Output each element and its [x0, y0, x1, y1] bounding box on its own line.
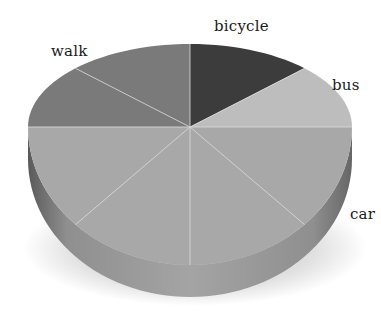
slice-label-bicycle: bicycle — [214, 19, 269, 34]
slice-label-car: car — [350, 207, 375, 222]
slice-label-bus: bus — [332, 78, 360, 93]
slice-label-walk: walk — [51, 44, 87, 59]
